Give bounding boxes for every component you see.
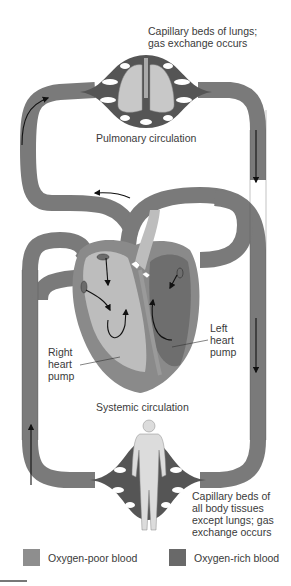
label-line: all body tissues [192, 502, 274, 514]
inferior-cava-branch [40, 278, 75, 300]
legend-label: Oxygen-poor blood [48, 552, 137, 564]
pulmonary-vein-return-vessel [200, 198, 245, 260]
legend: Oxygen-poor blood Oxygen-rich blood [0, 549, 291, 573]
label-line: exchange occurs [192, 526, 274, 538]
oxygen-rich-swatch [169, 549, 186, 566]
label-line: Left [210, 322, 236, 334]
right-heart-pump-label: Right heart pump [48, 346, 74, 382]
label-line: pump [210, 346, 236, 358]
left-heart-pump-label: Left heart pump [210, 322, 236, 358]
label-line: Right [48, 346, 74, 358]
oxygen-poor-swatch [23, 549, 40, 566]
legend-item-oxygen-poor: Oxygen-poor blood [23, 549, 137, 566]
legend-label: Oxygen-rich blood [194, 552, 279, 564]
lung-capillaries-label: Capillary beds of lungs; gas exchange oc… [148, 25, 257, 49]
legend-item-oxygen-rich: Oxygen-rich blood [169, 549, 279, 566]
sa-node-icon [97, 254, 109, 260]
label-line: except lungs; gas [192, 514, 274, 526]
divider-rule [0, 580, 27, 582]
label-line: Capillary beds of [192, 490, 274, 502]
body-capillaries-label: Capillary beds of all body tissues excep… [192, 490, 274, 538]
label-line: pump [48, 370, 74, 382]
label-line: heart [210, 334, 236, 346]
label-line: heart [48, 358, 74, 370]
pulmonary-circulation-label: Pulmonary circulation [96, 132, 196, 144]
label-line: gas exchange occurs [148, 37, 257, 49]
systemic-circulation-label: Systemic circulation [96, 401, 189, 413]
body-capillary-bed [90, 420, 206, 530]
lung-capillary-bed [80, 55, 212, 128]
label-line: Capillary beds of lungs; [148, 25, 257, 37]
pulmonary-vein-vessel [198, 90, 258, 180]
